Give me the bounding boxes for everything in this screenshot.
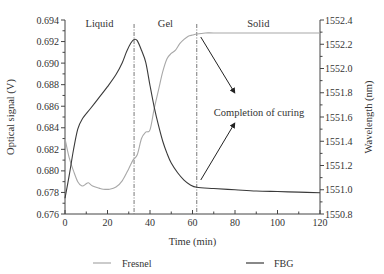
left-tick-label: 0.690 <box>37 58 60 69</box>
right-y-axis-label: Wavelength (nm) <box>363 80 375 153</box>
legend: Fresnel FBG <box>93 258 293 269</box>
right-tick-label: 1552.2 <box>325 39 353 50</box>
x-tick-label: 20 <box>103 217 113 228</box>
right-tick-label: 1550.8 <box>325 209 353 220</box>
annotation: Completion of curing <box>201 37 305 180</box>
x-tick-label: 40 <box>145 217 155 228</box>
phase-label-solid: Solid <box>247 18 270 29</box>
series-fbg-line <box>65 39 320 198</box>
x-tick-label: 0 <box>63 217 68 228</box>
right-tick-label: 1552.4 <box>325 15 353 26</box>
right-tick-label: 1551.6 <box>325 112 353 123</box>
phase-label-liquid: Liquid <box>86 18 115 29</box>
x-tick-label: 60 <box>188 217 198 228</box>
cure-monitoring-chart: 0.6760.6780.6800.6820.6840.6860.6880.690… <box>0 0 384 274</box>
right-tick-label: 1551.2 <box>325 160 353 171</box>
x-tick-label: 80 <box>230 217 240 228</box>
annotation-label: Completion of curing <box>214 107 305 118</box>
right-tick-label: 1551.0 <box>325 184 353 195</box>
left-y-axis: 0.6760.6780.6800.6820.6840.6860.6880.690… <box>37 15 66 220</box>
left-tick-label: 0.688 <box>37 79 60 90</box>
arrow-to-fresnel-plateau <box>201 37 235 93</box>
x-tick-label: 120 <box>313 217 328 228</box>
left-tick-label: 0.680 <box>37 165 60 176</box>
legend-fbg-label: FBG <box>274 258 293 269</box>
legend-fresnel-label: Fresnel <box>122 258 152 269</box>
left-y-axis-label: Optical signal (V) <box>5 79 17 155</box>
right-tick-label: 1552.0 <box>325 63 353 74</box>
left-tick-label: 0.692 <box>37 36 60 47</box>
left-tick-label: 0.678 <box>37 187 60 198</box>
left-tick-label: 0.676 <box>37 209 60 220</box>
x-tick-label: 100 <box>270 217 285 228</box>
left-tick-label: 0.686 <box>37 101 60 112</box>
right-y-axis: 1550.81551.01551.21551.41551.61551.81552… <box>320 15 353 220</box>
x-axis: 020406080100120 <box>63 210 328 228</box>
right-tick-label: 1551.4 <box>325 136 353 147</box>
left-tick-label: 0.682 <box>37 144 60 155</box>
arrow-to-fbg-plateau <box>201 123 235 180</box>
x-axis-label: Time (min) <box>169 236 217 248</box>
right-tick-label: 1551.8 <box>325 87 353 98</box>
phase-label-gel: Gel <box>158 18 173 29</box>
left-tick-label: 0.694 <box>37 15 60 26</box>
left-tick-label: 0.684 <box>37 122 60 133</box>
